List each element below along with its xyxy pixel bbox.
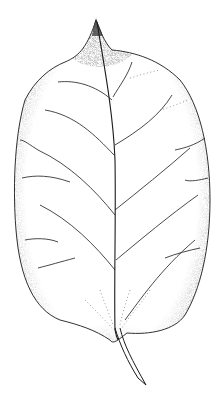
leaf-illustration	[0, 0, 223, 401]
stipple-shading	[0, 0, 223, 401]
leaf-drawing	[0, 0, 223, 401]
